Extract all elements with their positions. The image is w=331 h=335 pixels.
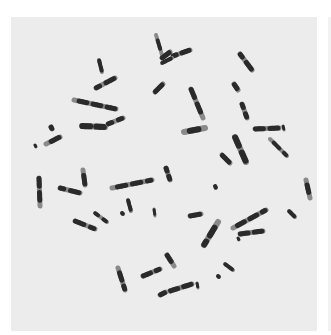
chromosome [191,89,203,118]
chromosome [218,276,219,277]
chromosome [197,283,198,288]
chromosome [95,213,107,222]
chromosome [118,268,125,290]
chromosome [283,126,284,130]
chromosome [75,221,95,229]
chromosome-spread [0,0,331,335]
chromosome [99,60,102,72]
chromosome [83,170,85,185]
chromosome [108,118,123,124]
chromosome [306,180,310,198]
chromosome [240,231,263,234]
chromosome [143,269,160,276]
chromosome [167,255,174,266]
chromosome [46,137,60,144]
chromosome [234,84,238,90]
chromosome [215,186,216,188]
chromosome [235,137,246,162]
chromosome [184,128,205,132]
chromosome [160,292,166,295]
chromosome [233,210,266,228]
chromosome [190,214,201,216]
chromosome [128,200,131,211]
chromosome [225,264,233,270]
chromosome [82,126,105,127]
chromosome [204,222,218,245]
chromosome [255,128,279,129]
chromosome [238,238,239,240]
chromosome [289,211,295,217]
chromosome [170,284,192,291]
chromosome [35,145,36,147]
chromosome [240,54,252,70]
chromosome [242,104,247,118]
chromosome [39,178,40,206]
chromosome [166,168,170,180]
chromosome [74,100,116,109]
chromosome [96,78,115,88]
chromosome [154,209,155,216]
chromosome [173,50,190,56]
chromosome [112,180,152,188]
chromosome [222,155,230,163]
chromosome [51,127,52,129]
chromosome [60,188,80,193]
chromosome [156,35,162,55]
chromosome [155,84,163,92]
chromosome [270,139,287,156]
chromosome [122,213,123,214]
